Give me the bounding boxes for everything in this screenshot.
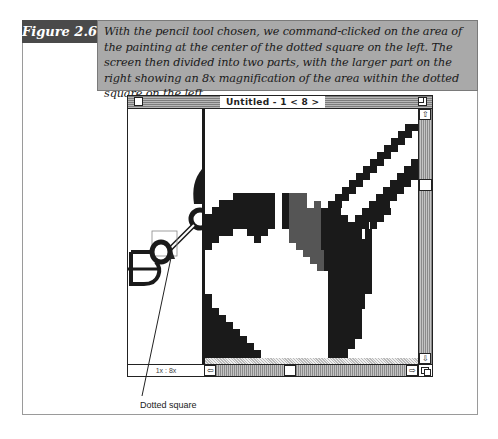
figure-caption: With the pencil tool chosen, we command-… (97, 20, 478, 91)
vertical-scroll-thumb[interactable] (419, 179, 432, 191)
zoom-box[interactable] (418, 97, 427, 106)
scroll-left-arrow-icon[interactable]: ⇦ (204, 365, 216, 376)
callout-label: Dotted square (140, 400, 197, 410)
window-title: Untitled - 1 < 8 > (220, 96, 325, 108)
horizontal-scrollbar[interactable]: ⇦ ⇨ (204, 364, 418, 376)
scroll-right-arrow-icon[interactable]: ⇨ (406, 365, 418, 376)
title-bar[interactable]: Untitled - 1 < 8 > (128, 96, 432, 109)
vertical-scrollbar[interactable]: ⇧ ⇩ (418, 109, 432, 364)
scroll-down-arrow-icon[interactable]: ⇩ (419, 353, 431, 364)
horizontal-scroll-thumb[interactable] (284, 365, 296, 376)
scroll-up-arrow-icon[interactable]: ⇧ (419, 109, 431, 120)
magnified-pane[interactable] (205, 109, 418, 359)
callout-arrow (140, 250, 180, 400)
close-box[interactable] (134, 97, 143, 106)
figure-label: Figure 2.6 (22, 20, 97, 43)
fatbits-view (205, 109, 418, 359)
grow-box[interactable] (418, 364, 432, 376)
